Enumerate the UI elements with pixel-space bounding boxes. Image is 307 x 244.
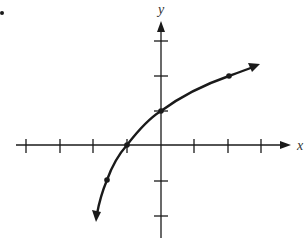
y-axis-arrow-icon — [157, 21, 165, 32]
x-axis: x — [16, 138, 304, 153]
point-2-2 — [226, 73, 232, 79]
curve-arrow-down-icon — [92, 210, 101, 222]
curve-points — [104, 73, 232, 183]
y-axis-label: y — [156, 2, 165, 17]
point-neg1-0 — [124, 142, 130, 148]
bullet-marker — [0, 11, 4, 15]
y-axis: y — [154, 2, 168, 238]
x-axis-arrow-icon — [280, 141, 291, 149]
coordinate-graph: x y — [0, 0, 307, 244]
x-axis-ticks — [26, 139, 261, 153]
log-curve — [92, 63, 260, 222]
x-axis-label: x — [296, 138, 304, 153]
point-0-1 — [158, 108, 164, 114]
point-neg1-5-neg1 — [104, 177, 110, 183]
